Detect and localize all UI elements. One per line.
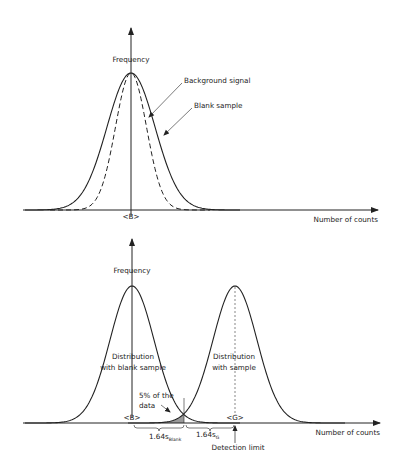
background-signal-label: Background signal — [184, 76, 250, 85]
background-signal-pointer — [149, 83, 182, 117]
tail-label-2: data — [139, 401, 155, 410]
blank-distribution-label-1: Distribution — [112, 352, 154, 361]
blank-sample-curve — [50, 73, 210, 210]
blank-interval-label: 1.64sBlank — [149, 432, 182, 442]
top-y-axis-label: Frequency — [112, 55, 150, 64]
detection-limit-label: Detection limit — [211, 443, 264, 452]
sample-distribution-label-1: Distribution — [213, 352, 255, 361]
sample-mean-label: <G> — [226, 413, 244, 422]
top-mean-label: <B> — [123, 212, 140, 221]
bottom-x-axis-label: Number of counts — [316, 428, 381, 437]
sample-distribution-label-2: with sample — [212, 363, 256, 372]
top-panel: Frequency <B> Number of counts Backgroun… — [23, 28, 378, 224]
bottom-y-axis-label: Frequency — [113, 266, 151, 275]
top-x-axis-label: Number of counts — [314, 215, 379, 224]
blank-sample-pointer — [164, 108, 192, 135]
tail-pointer — [161, 405, 170, 412]
sample-interval-label: 1.64sG — [196, 430, 220, 440]
bottom-panel: Frequency Distribution with blank sample… — [23, 239, 380, 452]
tail-label-1: 5% of the — [139, 391, 174, 400]
background-signal-curve — [25, 73, 240, 210]
blank-sample-label: Blank sample — [194, 101, 243, 110]
blank-distribution-label-2: with blank sample — [100, 363, 166, 372]
blank-interval-brace — [134, 425, 184, 431]
blank-mean-label: <B> — [124, 413, 141, 422]
detection-limit-diagram: Frequency <B> Number of counts Backgroun… — [0, 0, 402, 472]
